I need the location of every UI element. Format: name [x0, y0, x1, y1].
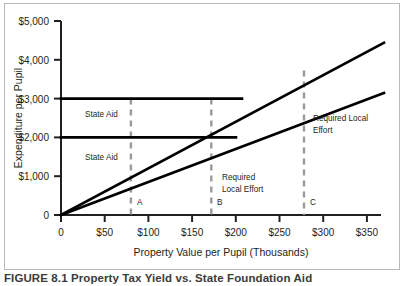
x-tick-label: $250 — [268, 227, 291, 238]
y-axis-title: Expenditure per Pupil — [12, 68, 24, 168]
marker-label-a: A — [137, 198, 143, 207]
annotation-state-aid-upper: State Aid — [85, 110, 118, 119]
chart-frame: $5,000 $4,000 $3,000 $2,000 $1,000 0 0 $… — [4, 3, 400, 270]
reference-markers — [131, 70, 304, 215]
annotation-required-local-effort-right-line1: Required Local — [313, 114, 368, 123]
x-tick-label: $50 — [96, 227, 113, 238]
marker-label-b: B — [217, 198, 223, 207]
x-tick-label: $350 — [356, 227, 379, 238]
x-axis-title: Property Value per Pupil (Thousands) — [134, 246, 309, 258]
x-tick-label: $150 — [181, 227, 204, 238]
x-tick-label: $200 — [225, 227, 248, 238]
y-axis-ticks — [54, 21, 61, 215]
annotation-state-aid-lower: State Aid — [85, 153, 118, 162]
reference-marker-labels: A B C — [137, 198, 316, 207]
x-tick-label: $300 — [312, 227, 335, 238]
y-tick-label: 0 — [43, 210, 49, 221]
annotation-required-local-effort-line1: Required — [222, 173, 256, 182]
figure-caption: FIGURE 8.1 Property Tax Yield vs. State … — [4, 272, 403, 286]
x-tick-label: $100 — [137, 227, 160, 238]
annotation-required-local-effort-line2: Local Effort — [222, 185, 264, 194]
x-tick-label: 0 — [58, 227, 64, 238]
figure-container: $5,000 $4,000 $3,000 $2,000 $1,000 0 0 $… — [0, 0, 407, 286]
y-tick-label: $5,000 — [18, 16, 49, 27]
x-axis-ticks — [61, 215, 367, 222]
expenditure-per-pupil-chart: $5,000 $4,000 $3,000 $2,000 $1,000 0 0 $… — [5, 4, 399, 269]
x-axis-tick-labels: 0 $50 $100 $150 $200 $250 $300 $350 — [58, 227, 378, 238]
marker-label-c: C — [310, 198, 316, 207]
y-tick-label: $1,000 — [18, 171, 49, 182]
annotation-required-local-effort-right-line2: Effort — [313, 126, 333, 135]
y-tick-label: $4,000 — [18, 55, 49, 66]
